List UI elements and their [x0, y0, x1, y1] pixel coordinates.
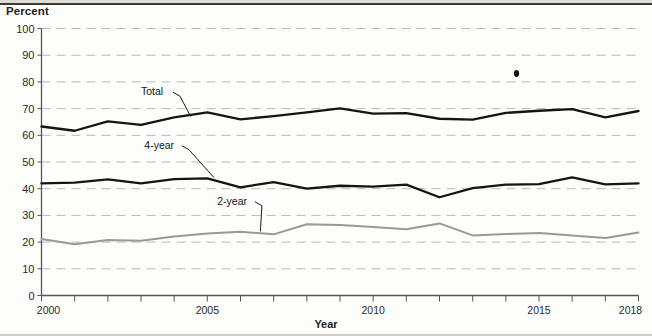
scan-speck-artifact [514, 70, 519, 77]
y-tick-label-20: 20 [22, 236, 34, 248]
series-annotation-leader-total [173, 92, 191, 116]
x-axis-title: Year [0, 318, 652, 330]
series-annotation-leader-2-year [255, 202, 262, 232]
axis-lines-group [38, 29, 639, 296]
y-tick-label-100: 100 [16, 23, 34, 35]
series-annotations-group: Total4-year2-year [141, 85, 262, 231]
chart-page: Percent 0102030405060708090100 200020052… [0, 0, 652, 336]
series-line-total [42, 108, 639, 130]
data-series-group [42, 108, 639, 244]
series-annotation-label-2-year: 2-year [217, 195, 247, 207]
y-tick-label-40: 40 [22, 183, 34, 195]
x-tick-label-2015: 2015 [527, 304, 551, 316]
x-tick-label-2000: 2000 [37, 304, 61, 316]
y-tick-label-10: 10 [22, 263, 34, 275]
series-line-4-year [42, 177, 639, 197]
x-tick-marks-group [42, 296, 639, 302]
series-annotation-label-4-year: 4-year [144, 139, 174, 151]
x-tick-label-2005: 2005 [196, 304, 220, 316]
y-tick-label-60: 60 [22, 129, 34, 141]
y-tick-label-80: 80 [22, 76, 34, 88]
x-tick-labels-group: 20002005201020152018 [37, 304, 643, 316]
x-tick-label-2010: 2010 [361, 304, 385, 316]
series-annotation-label-total: Total [141, 85, 163, 97]
y-tick-label-50: 50 [22, 156, 34, 168]
y-tick-labels-group: 0102030405060708090100 [16, 23, 34, 302]
y-tick-label-30: 30 [22, 209, 34, 221]
y-tick-label-0: 0 [28, 290, 34, 302]
x-tick-label-2018: 2018 [619, 304, 643, 316]
line-chart-plot: 0102030405060708090100 20002005201020152… [0, 0, 652, 336]
y-tick-label-70: 70 [22, 103, 34, 115]
y-tick-label-90: 90 [22, 49, 34, 61]
series-line-2-year [42, 223, 639, 244]
